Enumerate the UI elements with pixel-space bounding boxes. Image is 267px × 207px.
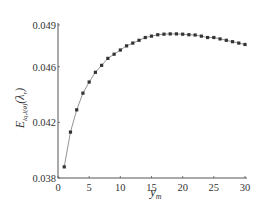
y-tick-label: 0.042 bbox=[32, 117, 56, 128]
data-point bbox=[187, 33, 190, 36]
y-tick-label: 0.046 bbox=[32, 62, 56, 73]
y-axis-title: Elq,l(θ)(λr) bbox=[13, 88, 29, 130]
data-point bbox=[144, 36, 147, 39]
data-point bbox=[169, 32, 172, 35]
data-point bbox=[162, 33, 165, 36]
data-point bbox=[106, 57, 109, 60]
x-tick-label: 0 bbox=[55, 182, 60, 193]
data-point bbox=[218, 37, 221, 40]
y-tick-label: 0.049 bbox=[32, 20, 56, 31]
data-point bbox=[131, 41, 134, 44]
data-point bbox=[200, 35, 203, 38]
y-tick-label: 0.038 bbox=[32, 173, 56, 184]
data-point bbox=[194, 33, 197, 36]
x-tick-label: 20 bbox=[177, 182, 188, 193]
x-tick-label: 10 bbox=[115, 182, 126, 193]
data-point bbox=[212, 36, 215, 39]
plot-area bbox=[63, 32, 247, 168]
x-axis-title: ym bbox=[148, 184, 162, 201]
data-point bbox=[94, 71, 97, 74]
data-point bbox=[100, 64, 103, 67]
data-point bbox=[206, 36, 209, 39]
data-point bbox=[225, 39, 228, 42]
x-tick-label: 25 bbox=[209, 182, 220, 193]
data-point bbox=[113, 53, 116, 56]
data-point bbox=[243, 43, 246, 46]
data-point bbox=[75, 108, 78, 111]
data-point bbox=[88, 80, 91, 83]
data-point bbox=[119, 48, 122, 51]
data-point bbox=[156, 33, 159, 36]
line-chart: 0510152025300.0380.0420.0460.049 ym Elq,… bbox=[0, 0, 267, 207]
data-point bbox=[125, 44, 128, 47]
x-tick-label: 5 bbox=[87, 182, 92, 193]
data-point bbox=[237, 41, 240, 44]
data-point bbox=[69, 131, 72, 134]
data-point bbox=[181, 33, 184, 36]
data-point bbox=[150, 35, 153, 38]
series-line bbox=[64, 34, 245, 167]
data-point bbox=[175, 32, 178, 35]
data-point bbox=[81, 92, 84, 95]
data-point bbox=[231, 40, 234, 43]
data-point bbox=[63, 165, 66, 168]
data-point bbox=[137, 39, 140, 42]
x-tick-label: 30 bbox=[240, 182, 251, 193]
